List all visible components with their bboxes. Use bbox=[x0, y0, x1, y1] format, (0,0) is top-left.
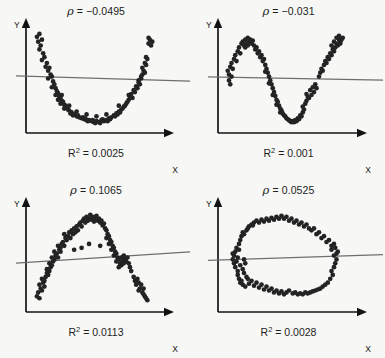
scatter-panel-2: ρ = −0.031 Y X R2 = 0.001 bbox=[192, 0, 385, 179]
panel-4-r2-label: R2 = 0.0028 bbox=[192, 326, 385, 338]
r2-prefix-2: R bbox=[263, 147, 271, 159]
r2-value-3: = 0.0113 bbox=[83, 326, 123, 338]
scatter-panel-1: ρ = −0.0495 Y X R2 = 0.0025 bbox=[0, 0, 192, 179]
r2-sup-1: 2 bbox=[76, 146, 80, 155]
r2-value-4: = 0.0028 bbox=[275, 326, 316, 338]
r2-sup-2: 2 bbox=[271, 146, 275, 155]
r2-sup-3: 2 bbox=[76, 325, 80, 334]
r2-sup-4: 2 bbox=[268, 325, 272, 334]
scatter-panel-3: ρ = 0.1065 Y X R2 = 0.0113 bbox=[0, 179, 192, 358]
scatter-panel-4: ρ = 0.0525 Y X R2 = 0.0028 bbox=[192, 179, 385, 358]
panel-1-r2-label: R2 = 0.0025 bbox=[0, 147, 192, 159]
r2-prefix-1: R bbox=[68, 147, 76, 159]
r2-prefix-3: R bbox=[68, 326, 76, 338]
panel-grid: ρ = −0.0495 Y X R2 = 0.0025 ρ = −0.031 Y… bbox=[0, 0, 385, 358]
panel-2-r2-label: R2 = 0.001 bbox=[192, 147, 385, 159]
r2-value-1: = 0.0025 bbox=[83, 147, 124, 159]
r2-value-2: = 0.001 bbox=[278, 147, 313, 159]
panel-3-r2-label: R2 = 0.0113 bbox=[0, 326, 192, 338]
correlation-scatter-figure: ρ = −0.0495 Y X R2 = 0.0025 ρ = −0.031 Y… bbox=[0, 0, 385, 358]
